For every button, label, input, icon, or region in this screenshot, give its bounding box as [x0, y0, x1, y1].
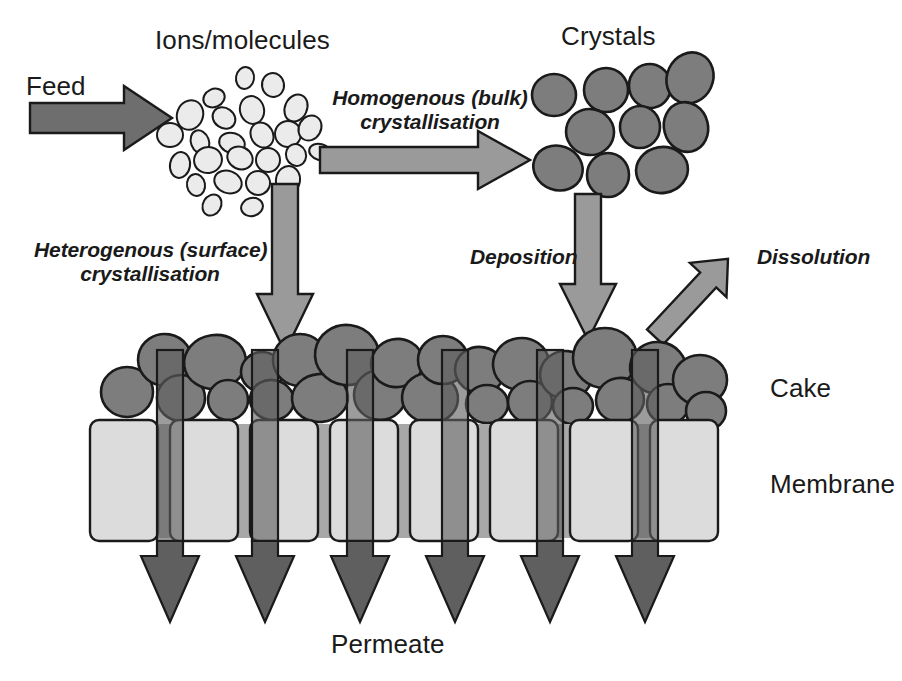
crystallisation-diagram: Feed Ions/molecules Crystals Homogenous … — [0, 0, 902, 681]
permeate-arrow-head — [521, 541, 579, 622]
crystal-particle — [587, 153, 629, 197]
cake-particle — [466, 385, 508, 423]
homogenous-crystallisation-arrow — [320, 131, 530, 189]
ion-particle — [234, 66, 256, 91]
permeate-arrow-head — [331, 541, 389, 622]
permeate-arrow-shaft — [157, 350, 183, 541]
permeate-arrow-shaft — [347, 350, 373, 541]
ions-molecules-cluster — [157, 66, 333, 219]
ion-particle — [237, 93, 267, 126]
ion-particle — [157, 123, 183, 147]
crystals-label: Crystals — [561, 22, 656, 51]
heterogenous-crystallisation-label: Heterogenous (surface) crystallisation — [34, 238, 266, 285]
permeate-arrow-head — [141, 541, 199, 622]
ion-particle — [256, 148, 280, 172]
permeate-arrow-head — [616, 541, 674, 622]
crystal-particle — [620, 106, 660, 148]
feed-label: Feed — [26, 72, 86, 101]
permeate-arrow-shaft — [442, 350, 468, 541]
membrane-block — [650, 420, 718, 541]
ion-particle — [260, 71, 286, 98]
permeate-arrow-shaft — [632, 350, 658, 541]
ions-molecules-label: Ions/molecules — [155, 26, 330, 55]
permeate-arrow-head — [236, 541, 294, 622]
cake-particle — [208, 380, 248, 420]
permeate-arrow-shaft — [537, 350, 563, 541]
cake-label: Cake — [770, 374, 831, 403]
crystal-particle — [532, 74, 576, 116]
crystals-cluster — [527, 45, 722, 198]
membrane-block — [90, 420, 158, 541]
dissolution-label: Dissolution — [757, 245, 870, 269]
membrane-label: Membrane — [770, 470, 895, 499]
dissolution-arrow — [637, 242, 747, 354]
ion-particle — [168, 150, 192, 179]
ion-particle — [239, 195, 265, 218]
crystal-particle — [584, 68, 628, 112]
membrane-block — [570, 420, 638, 541]
crystal-particle — [658, 45, 722, 112]
permeate-arrow-shaft — [252, 350, 278, 541]
ion-particle — [185, 173, 207, 198]
permeate-label: Permeate — [331, 630, 445, 659]
permeate-arrow-heads — [141, 541, 674, 622]
deposition-label: Deposition — [470, 245, 578, 269]
ion-particle — [199, 191, 226, 219]
homogenous-crystallisation-label: Homogenous (bulk) crystallisation — [324, 86, 536, 133]
permeate-arrow-head — [426, 541, 484, 622]
ion-particle — [275, 121, 301, 147]
